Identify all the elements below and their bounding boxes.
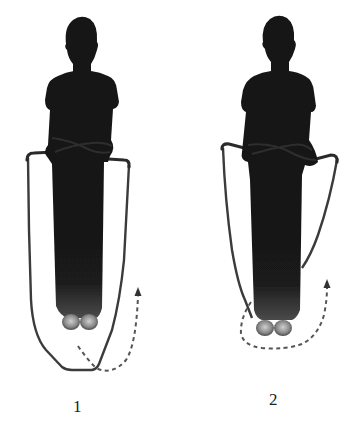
figure-step-1 [27,17,142,371]
head-silhouette [262,16,295,72]
jump-rope-illustration [0,0,358,430]
figure-step-2 [222,16,337,349]
rope-handle-right [108,159,129,167]
right-shoe [80,314,98,330]
arrowhead-icon [135,287,142,296]
left-shoe [256,320,274,336]
head-silhouette [65,17,98,72]
left-shoe [62,314,80,330]
step-label-1: 1 [73,398,82,415]
right-shoe [274,320,292,336]
jump-rope [223,148,252,318]
arrowhead-icon [324,279,331,288]
step-label-2: 2 [269,391,278,408]
torso-silhouette [45,71,119,318]
jump-rope [302,160,337,268]
torso-silhouette [241,71,318,320]
